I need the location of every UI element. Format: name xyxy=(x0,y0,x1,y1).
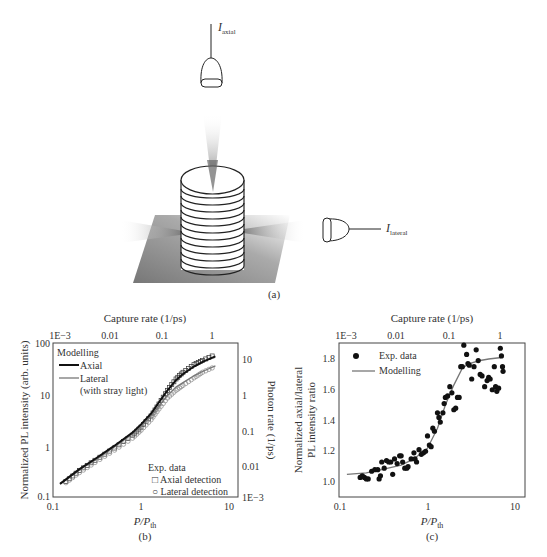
svg-text:1.0: 1.0 xyxy=(323,476,336,487)
chart-c: Capture rate (1/ps) 1E−3 0.01 0.1 1 1.8 … xyxy=(292,312,525,543)
ratio-data-point xyxy=(432,429,437,434)
ratio-data-point xyxy=(488,376,493,381)
svg-text:Exp. data: Exp. data xyxy=(148,462,186,473)
ratio-data-point xyxy=(416,447,421,452)
chart-c-legend: Exp. data Modelling xyxy=(352,350,421,376)
chart-c-panel-label: (c) xyxy=(426,530,439,543)
ratio-data-point xyxy=(436,415,441,420)
svg-text:0.01: 0.01 xyxy=(387,330,405,341)
svg-text:PL intensity ratio: PL intensity ratio xyxy=(305,382,317,458)
svg-text:Normalized axial/lateral: Normalized axial/lateral xyxy=(292,367,304,474)
svg-text:□ Axial detection: □ Axial detection xyxy=(152,474,221,485)
ratio-data-point xyxy=(425,433,430,438)
ratio-data-point xyxy=(457,395,462,400)
chart-b-model-legend: Modelling Axial Lateral (with stray ligh… xyxy=(57,347,147,397)
svg-text:(with stray light): (with stray light) xyxy=(80,385,147,397)
ratio-data-point xyxy=(479,373,484,378)
ratio-data-point xyxy=(400,459,405,464)
ratio-data-point xyxy=(464,352,469,357)
ratio-data-point xyxy=(405,464,410,469)
ratio-data-point xyxy=(447,384,452,389)
panel-a-label: (a) xyxy=(268,288,281,301)
ratio-data-point xyxy=(460,364,465,369)
lateral-detector-icon xyxy=(323,218,381,242)
ratio-data-point xyxy=(375,467,380,472)
panel-a-diagram: Iaxial Ilateral (a) xyxy=(120,20,408,301)
ratio-data-point xyxy=(500,369,505,374)
ratio-data-point xyxy=(442,401,447,406)
svg-text:1: 1 xyxy=(139,501,144,512)
svg-text:1: 1 xyxy=(242,390,247,401)
chart-b-y2-axis-title: Photon rate (1/ps) xyxy=(265,381,278,460)
ratio-data-point xyxy=(492,364,497,369)
svg-text:Axial: Axial xyxy=(80,360,102,371)
ratio-data-point xyxy=(378,473,383,478)
chart-c-x-axis-title: P/Pth xyxy=(420,515,444,530)
svg-text:0.01: 0.01 xyxy=(101,330,119,341)
ratio-data-point xyxy=(429,444,434,449)
ratio-data-point xyxy=(411,450,416,455)
svg-text:10: 10 xyxy=(224,501,234,512)
lateral-data-marker xyxy=(121,442,125,446)
svg-text:Modelling: Modelling xyxy=(379,365,421,376)
ratio-data-point xyxy=(469,376,474,381)
ratio-data-point xyxy=(423,449,428,454)
chart-c-y-axis-title: Normalized axial/lateral PL intensity ra… xyxy=(292,367,317,474)
chart-b-y-ticks: 100 10 1 0.1 xyxy=(35,338,50,502)
svg-text:0.1: 0.1 xyxy=(242,426,255,437)
chart-c-y-ticks: 1.8 1.6 1.4 1.2 1.0 xyxy=(323,353,336,487)
svg-text:1E−3: 1E−3 xyxy=(49,330,71,341)
svg-text:1.8: 1.8 xyxy=(323,353,336,364)
svg-text:10: 10 xyxy=(510,501,520,512)
ratio-data-point xyxy=(399,453,404,458)
svg-text:1: 1 xyxy=(45,442,50,453)
ratio-data-point xyxy=(366,476,371,481)
svg-text:○ Lateral detection: ○ Lateral detection xyxy=(152,486,228,497)
svg-text:1.4: 1.4 xyxy=(323,415,336,426)
chart-b-x-axis-title: P/Pth xyxy=(133,515,157,530)
ratio-data-point xyxy=(390,472,395,477)
ratio-data-point xyxy=(467,363,472,368)
svg-text:1: 1 xyxy=(498,330,503,341)
ratio-data-point xyxy=(498,346,503,351)
ratio-data-point xyxy=(471,364,476,369)
ratio-data-point xyxy=(453,406,458,411)
chart-b: Capture rate (1/ps) 1E−3 0.01 0.1 1 100 … xyxy=(18,312,278,543)
svg-text:Exp. data: Exp. data xyxy=(379,350,417,361)
svg-text:0.1: 0.1 xyxy=(334,501,347,512)
svg-text:1.2: 1.2 xyxy=(323,445,336,456)
ratio-data-point xyxy=(476,358,481,363)
chart-c-x-ticks: 0.1 1 10 xyxy=(334,501,520,512)
ratio-data-point xyxy=(499,353,504,358)
svg-text:0.1: 0.1 xyxy=(47,501,60,512)
chart-b-y2-ticks: 10 1 0.1 0.01 1E−3 xyxy=(242,354,264,503)
chart-b-y-axis-title: Normalized PL intensity (arb. units) xyxy=(18,340,31,499)
ratio-data-point xyxy=(392,456,397,461)
svg-text:0.1: 0.1 xyxy=(443,330,456,341)
ratio-data-point xyxy=(474,347,479,352)
chart-b-exp-legend: Exp. data □ Axial detection ○ Lateral de… xyxy=(148,462,228,497)
chart-b-panel-label: (b) xyxy=(139,530,152,543)
chart-b-x-ticks: 0.1 1 10 xyxy=(47,501,234,512)
ratio-data-point xyxy=(461,343,466,348)
chart-c-top-ticks: 1E−3 0.01 0.1 1 xyxy=(335,330,502,341)
svg-text:10: 10 xyxy=(40,390,50,401)
svg-text:0.01: 0.01 xyxy=(242,461,260,472)
svg-text:1E−3: 1E−3 xyxy=(335,330,357,341)
ratio-data-point xyxy=(379,459,384,464)
ratio-data-point xyxy=(482,384,487,389)
chart-b-top-axis-title: Capture rate (1/ps) xyxy=(104,312,187,325)
ratio-data-point xyxy=(435,410,440,415)
svg-text:1E−3: 1E−3 xyxy=(242,492,264,503)
chart-c-top-axis-title: Capture rate (1/ps) xyxy=(391,312,474,325)
ratio-data-point xyxy=(500,364,505,369)
axial-intensity-label: Iaxial xyxy=(217,20,236,36)
lateral-intensity-label: Ilateral xyxy=(385,221,408,237)
svg-text:0.1: 0.1 xyxy=(156,330,169,341)
lateral-data-marker xyxy=(126,439,130,443)
svg-text:Modelling: Modelling xyxy=(57,347,99,358)
ratio-data-point xyxy=(438,419,443,424)
ratio-data-point xyxy=(445,393,450,398)
svg-text:1.6: 1.6 xyxy=(323,384,336,395)
svg-text:Lateral: Lateral xyxy=(80,373,109,384)
